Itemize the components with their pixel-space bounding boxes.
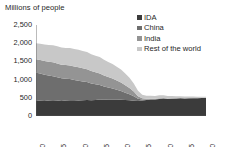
legend-item-label: Rest of the world	[144, 44, 201, 53]
y-axis-tick-label: 2,000	[0, 39, 32, 47]
x-axis-tick-label: 2000	[82, 144, 90, 147]
legend-item[interactable]: IDA	[137, 12, 201, 23]
legend-item[interactable]: Rest of the world	[137, 44, 201, 55]
legend-swatch-icon	[137, 15, 142, 20]
legend-item-label: IDA	[144, 13, 157, 22]
y-axis-tick-label: 1,500	[0, 57, 32, 65]
legend-swatch-icon	[137, 26, 142, 31]
x-axis-tick-label: 2010	[124, 144, 132, 147]
y-axis-tick-label: 0	[0, 112, 32, 120]
x-axis-tick-label: 2020	[167, 144, 175, 147]
x-axis-tick-label: 2025	[188, 144, 196, 147]
legend-item-label: China	[144, 23, 164, 32]
x-axis-tick-label: 1990	[39, 144, 47, 147]
chart-legend: IDAChinaIndiaRest of the world	[137, 12, 201, 54]
x-axis-tick-label: 2015	[145, 144, 153, 147]
legend-item[interactable]: India	[137, 33, 201, 44]
y-axis-tick-label: 1,000	[0, 76, 32, 84]
legend-swatch-icon	[137, 47, 142, 52]
stacked-area-chart: Millions of people 2,5002,0001,5001,0005…	[0, 0, 230, 147]
x-axis-tick-label: 1995	[60, 144, 68, 147]
x-axis-tick-label: 2005	[103, 144, 111, 147]
x-axis: 199019952000200520102015202020252030	[36, 118, 206, 147]
y-axis: 2,5002,0001,5001,0005000	[0, 0, 32, 147]
legend-item-label: India	[144, 34, 160, 43]
x-axis-tick-label: 2030	[209, 144, 217, 147]
y-axis-tick-label: 500	[0, 94, 32, 102]
legend-swatch-icon	[137, 36, 142, 41]
y-axis-tick-label: 2,500	[0, 21, 32, 29]
legend-item[interactable]: China	[137, 23, 201, 34]
